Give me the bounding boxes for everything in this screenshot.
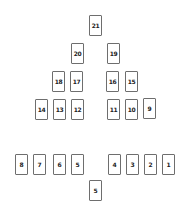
hand-card[interactable]: 2 [144, 154, 157, 175]
pyramid-card[interactable]: 20 [71, 43, 84, 64]
pyramid-card[interactable]: 9 [143, 98, 156, 119]
hand-card[interactable]: 3 [126, 154, 139, 175]
hand-card[interactable]: 6 [53, 154, 66, 175]
pyramid-card[interactable]: 19 [107, 43, 120, 64]
hand-card[interactable]: 7 [33, 154, 46, 175]
hand-card[interactable]: 1 [162, 154, 175, 175]
hand-card[interactable]: 8 [15, 154, 28, 175]
pyramid-card[interactable]: 13 [53, 99, 66, 120]
current-card[interactable]: 5 [89, 180, 102, 201]
game-board: 2120191817161514131211109876543215 [0, 0, 186, 222]
hand-card[interactable]: 4 [108, 154, 121, 175]
pyramid-card[interactable]: 12 [71, 99, 84, 120]
hand-card[interactable]: 5 [71, 154, 84, 175]
pyramid-card[interactable]: 11 [107, 99, 120, 120]
pyramid-card[interactable]: 21 [89, 15, 102, 36]
pyramid-card[interactable]: 14 [35, 99, 48, 120]
pyramid-card[interactable]: 15 [125, 71, 138, 92]
pyramid-card[interactable]: 16 [106, 71, 119, 92]
pyramid-card[interactable]: 17 [70, 71, 83, 92]
pyramid-card[interactable]: 18 [52, 71, 65, 92]
pyramid-card[interactable]: 10 [125, 99, 138, 120]
